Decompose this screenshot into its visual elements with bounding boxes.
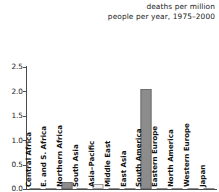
bar [204,188,215,189]
chart-title-line-2: people per year, 1975–2000 [108,12,215,22]
x-axis-category-label: E. and S. Africa [40,126,47,187]
bar [109,188,120,189]
y-axis-tick [23,116,26,117]
y-axis-tick-label: 2.5 [11,63,23,70]
x-axis-category-label: Japan [199,165,206,187]
bar [156,188,167,189]
bar [45,188,56,189]
x-axis-category-label: South America [135,128,142,187]
x-axis-category-label: South Asia [72,144,79,187]
y-axis-tick-label: 2.0 [11,88,23,95]
bar [172,188,183,189]
y-axis-tick-labels: 2.52.01.51.00.50.0 [0,60,23,190]
y-axis-tick [23,91,26,92]
x-axis-line [26,189,217,190]
x-axis-category-label: Asia–Pacific [88,141,95,187]
x-axis-category-label: Northern Africa [56,125,63,187]
bar-slot: Japan [201,61,217,189]
x-axis-category-label: Central Africa [24,132,31,187]
x-axis-category-label: North America [167,129,174,187]
plot-area: Central AfricaE. and S. AfricaNorthern A… [26,60,217,190]
bar-chart-figure: deaths per million people per year, 1975… [0,0,219,192]
y-axis-tick [23,67,26,68]
y-axis-tick [23,189,26,190]
x-axis-category-label: Middle East [104,140,111,187]
x-axis-category-label: Eastern Europe [151,126,158,187]
bar [77,188,88,189]
y-axis-tick-label: 1.0 [11,137,23,144]
bar [124,188,135,189]
chart-title-line-1: deaths per million [108,2,215,12]
y-axis-tick-label: 1.5 [11,112,23,119]
bar-series: Central AfricaE. and S. AfricaNorthern A… [27,61,217,189]
y-axis-tick-label: 0.5 [11,161,23,168]
y-axis-tick-label: 0.0 [11,185,23,192]
bar [29,188,40,189]
chart-title: deaths per million people per year, 1975… [108,2,215,21]
x-axis-category-label: Western Europe [183,123,190,187]
bar [188,188,199,189]
x-axis-category-label: East Asia [119,150,126,187]
